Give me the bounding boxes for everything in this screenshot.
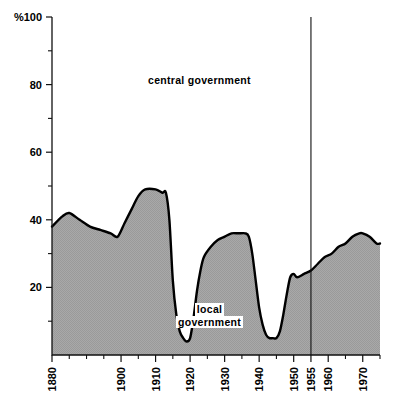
local-government-annotation-line1: local [195, 303, 224, 316]
y-axis-unit-label-text: % [14, 11, 24, 23]
y-tick-label: 20 [30, 281, 42, 293]
y-tick-label: 60 [30, 146, 42, 158]
y-tick-label: 80 [30, 79, 42, 91]
local-government-annotation: local government [176, 303, 243, 328]
y-tick-label: 100 [24, 11, 42, 23]
x-tick-label: 1955 [305, 367, 317, 391]
y-axis-ticks [46, 17, 52, 321]
x-tick-label: 1900 [115, 367, 127, 391]
x-tick-label: 1920 [184, 367, 196, 391]
x-tick-label: 1940 [253, 367, 265, 391]
y-tick-label: 40 [30, 214, 42, 226]
x-tick-label: 1880 [46, 367, 58, 391]
y-axis-unit-label: % [14, 11, 24, 23]
x-tick-label: 1930 [219, 367, 231, 391]
area-chart-plot: 10080604020 1880190019101920193019401950… [0, 0, 397, 406]
y-axis-tick-labels: 10080604020 [24, 11, 42, 293]
x-tick-label: 1950 [288, 367, 300, 391]
local-government-annotation-line2: government [176, 316, 243, 329]
x-tick-label: 1970 [357, 367, 369, 391]
x-axis-ticks [52, 355, 380, 362]
x-tick-label: 1960 [322, 367, 334, 391]
central-government-annotation: central government [148, 74, 251, 86]
chart-container: 10080604020 1880190019101920193019401950… [0, 0, 397, 406]
x-axis-tick-labels: 1880190019101920193019401950195519601970 [46, 367, 369, 391]
x-tick-label: 1910 [150, 367, 162, 391]
local-government-area [52, 189, 380, 355]
